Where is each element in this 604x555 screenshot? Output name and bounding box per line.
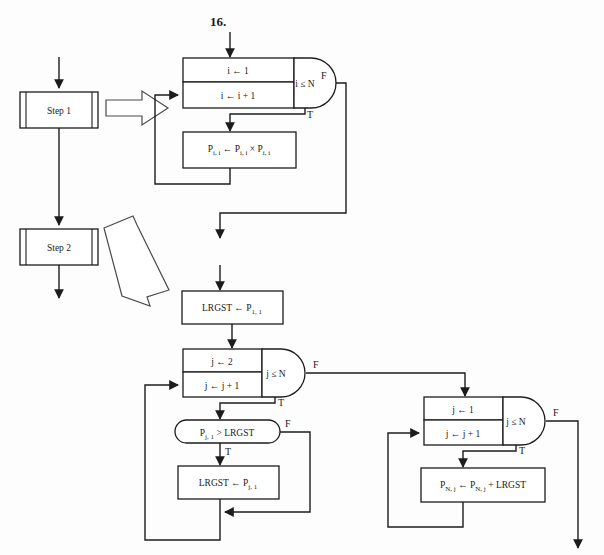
loop-2-test-rhs: LRGST: [224, 428, 254, 438]
loop-1-condition-label: i ≤ N: [295, 79, 315, 89]
figure-canvas: 16. Step 1 Step 2 i ← 1 i ← i + 1: [0, 0, 604, 555]
loop-3-condition-label: j ≤ N: [505, 417, 526, 427]
loop-3-body-assign: ←: [458, 480, 468, 490]
step-1-label: Step 1: [47, 106, 71, 116]
loop-2-body-assign: ←: [231, 478, 241, 488]
loop-3-init-label: j ← 1: [451, 405, 474, 415]
loop-1-true-flag: T: [307, 109, 313, 120]
loop-2-body-lhs: LRGST: [199, 478, 229, 488]
loop-1-increment-label: i ← i + 1: [221, 91, 256, 101]
step-2-label: Step 2: [47, 243, 71, 253]
loop-2-body-rhs-sub: j, 1: [247, 483, 257, 491]
loop-2-increment-label: j ← j + 1: [204, 381, 240, 391]
init-largest-assign: ←: [234, 303, 244, 313]
loop-1-body-op2-sub: i, i: [263, 149, 270, 157]
loop-2-false-flag: F: [313, 359, 319, 370]
expansion-arrow-step-2: [104, 216, 169, 306]
loop-2-test-lhs-sub: j, 1: [204, 433, 214, 441]
loop-1-body-assign: ←: [223, 144, 233, 154]
loop-2-test-false-flag: F: [285, 418, 291, 429]
loop-3-false-path: [546, 421, 578, 548]
loop-1-init-label: i ← 1: [227, 66, 249, 76]
loop-2-false-path: [306, 373, 465, 396]
loop-3-false-flag: F: [553, 407, 559, 418]
flowchart-svg: 16. Step 1 Step 2 i ← 1 i ← i + 1: [0, 0, 604, 555]
loop-3-body-op2: LRGST: [496, 480, 526, 490]
loop-3-body-op1-sub: N, j: [475, 485, 486, 493]
figure-number: 16.: [210, 14, 226, 29]
loop-2-test-true-flag: T: [225, 446, 231, 457]
loop-2-back-edge: [145, 385, 220, 540]
loop-1-body-op1-sub: i, i: [240, 149, 247, 157]
loop-1-body-lhs-sub: i, i: [213, 149, 220, 157]
loop-3-body-lhs-sub: N, j: [445, 485, 456, 493]
expansion-arrow-step-1: [106, 91, 168, 125]
loop-2-init-label: j ← 2: [210, 357, 233, 367]
init-largest-rhs-sub: 1, 1: [251, 308, 262, 316]
loop-3-increment-label: j ← j + 1: [445, 429, 481, 439]
loop-1-false-flag: F: [321, 70, 327, 81]
init-largest-lhs: LRGST: [202, 303, 232, 313]
loop-3-true-flag: T: [519, 445, 525, 456]
loop-2-condition-label: j ≤ N: [265, 369, 286, 379]
loop-2-true-flag: T: [278, 397, 284, 408]
loop-3-true-path: [463, 445, 516, 467]
loop-1-true-path: [230, 108, 305, 131]
loop-2-true-path: [220, 397, 275, 419]
